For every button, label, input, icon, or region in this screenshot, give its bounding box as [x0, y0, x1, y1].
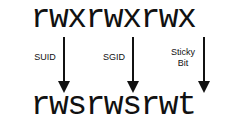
suid-label: SUID — [30, 52, 60, 63]
original-permissions: rwxrwxrwx — [0, 2, 226, 35]
sgid-arrow-icon — [132, 37, 134, 83]
sticky-bit-arrow-icon — [203, 37, 205, 83]
suid-arrow-icon — [63, 37, 65, 83]
special-permissions: rwsrwsrwt — [0, 89, 226, 122]
sgid-label: SGID — [99, 52, 129, 63]
sticky-bit-label: Sticky Bit — [166, 47, 200, 69]
